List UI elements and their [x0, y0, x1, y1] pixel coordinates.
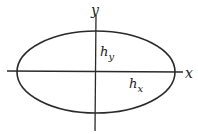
x-axis-label: x: [185, 65, 193, 81]
hy-sub: y: [107, 51, 114, 62]
hy-label: hy: [100, 44, 114, 62]
ellipse-diagram: y x hy hx: [0, 0, 198, 134]
hy-base: h: [100, 44, 108, 59]
hx-sub: x: [137, 83, 143, 94]
y-axis-label: y: [90, 2, 100, 18]
hx-label: hx: [129, 76, 143, 94]
hx-base: h: [129, 76, 137, 91]
